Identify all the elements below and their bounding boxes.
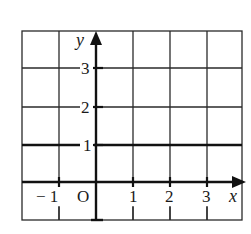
x-tick-label-neg1: − 1 bbox=[36, 187, 58, 206]
origin-label: O bbox=[77, 187, 89, 206]
x-tick-label-2: 2 bbox=[165, 187, 174, 206]
x-axis-label: x bbox=[228, 186, 237, 206]
x-tick-label-3: 3 bbox=[202, 187, 211, 206]
x-tick-label-1: 1 bbox=[129, 187, 138, 206]
y-axis-ticks bbox=[93, 68, 103, 145]
y-axis-arrow-icon bbox=[90, 31, 102, 45]
y-tick-label-2: 2 bbox=[81, 98, 90, 117]
y-tick-label-3: 3 bbox=[81, 59, 90, 78]
y-tick-label-1: 1 bbox=[83, 136, 92, 155]
grid-horizontal-lines bbox=[22, 68, 242, 107]
lower-grid-stubs bbox=[59, 207, 207, 220]
y-axis-label: y bbox=[74, 30, 84, 50]
coordinate-plane: y x O 3 2 1 − 1 1 2 3 bbox=[0, 0, 251, 234]
